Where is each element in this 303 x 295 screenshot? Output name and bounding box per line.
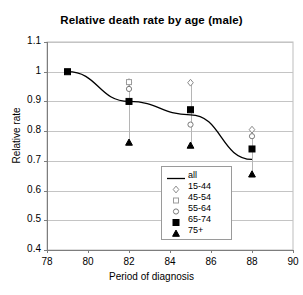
y-tick-label: 0.9	[15, 94, 41, 105]
legend-item-label: 55-64	[187, 203, 211, 214]
chart-legend: all15-4445-5455-6465-7475+	[161, 166, 232, 240]
marker-open-circle	[188, 122, 193, 127]
marker-open-circle	[249, 134, 254, 139]
x-tick-label: 88	[240, 256, 264, 267]
legend-item: 15-44	[162, 181, 231, 192]
y-tick-label: 0.8	[15, 124, 41, 135]
plot-area	[0, 0, 303, 295]
y-tick-label: 0.4	[15, 243, 41, 254]
y-tick-label: 0.7	[15, 154, 41, 165]
legend-item: 55-64	[162, 203, 231, 214]
y-tick-label: 0.6	[15, 184, 41, 195]
legend-item-label: 45-54	[187, 192, 211, 203]
y-tick-label: 0.5	[15, 213, 41, 224]
filled-square-icon	[165, 214, 187, 225]
open-diamond-icon	[165, 181, 187, 192]
legend-item: 65-74	[162, 214, 231, 225]
legend-item: 45-54	[162, 192, 231, 203]
marker-filled-square	[65, 69, 71, 75]
legend-item: 75+	[162, 225, 231, 236]
filled-triangle-icon	[165, 225, 187, 236]
line-swatch-icon	[165, 170, 187, 181]
relative-death-rate-chart: Relative death rate by age (male) Relati…	[0, 0, 303, 295]
marker-open-circle	[126, 86, 131, 91]
y-tick-label: 1.1	[15, 35, 41, 46]
y-tick-label: 1	[15, 65, 41, 76]
marker-filled-square	[188, 107, 194, 113]
marker-filled-triangle	[173, 230, 180, 236]
legend-item-label: all	[187, 170, 197, 181]
legend-item-label: 65-74	[187, 214, 211, 225]
x-tick-label: 82	[117, 256, 141, 267]
marker-open-square	[127, 80, 132, 85]
x-tick-label: 86	[199, 256, 223, 267]
legend-item-label: 15-44	[187, 181, 211, 192]
open-circle-icon	[165, 203, 187, 214]
legend-item-label: 75+	[187, 225, 203, 236]
marker-filled-square	[126, 98, 132, 104]
x-tick-label: 80	[76, 256, 100, 267]
legend-item: all	[162, 170, 231, 181]
open-square-icon	[165, 192, 187, 203]
marker-filled-square	[249, 146, 255, 152]
x-tick-label: 84	[158, 256, 182, 267]
x-tick-label: 90	[281, 256, 303, 267]
x-tick-label: 78	[35, 256, 59, 267]
